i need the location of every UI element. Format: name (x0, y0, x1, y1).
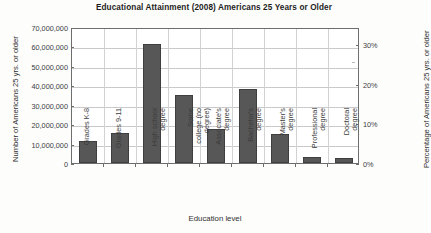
y-axis-left-tick-mark (71, 67, 74, 68)
gridline-vertical (264, 29, 265, 163)
gridline-horizontal (72, 87, 358, 88)
x-axis-category-label-line: Grades 9-11 (115, 108, 123, 168)
x-axis-tick-mark (103, 164, 104, 167)
x-axis-category-label: High schooldegree (151, 108, 167, 168)
x-axis-category-label-line: degree (319, 108, 327, 168)
y-axis-left-tick-mark (71, 28, 74, 29)
y-axis-left-tick-label: 0 (12, 160, 68, 169)
y-axis-left-tick-mark (71, 125, 74, 126)
chart-title: Educational Attainment (2008) Americans … (44, 3, 384, 12)
y-axis-right-ticks: 30%20%10%0% (363, 28, 397, 164)
y-axis-left-tick-label: 60,000,000 (12, 43, 68, 52)
y-axis-left-tick-label: 70,000,000 (12, 24, 68, 33)
x-axis-category-label-line: degree (223, 108, 231, 168)
y-axis-left-tick-label: 10,000,000 (12, 140, 68, 149)
y-axis-left-tick-label: 50,000,000 (12, 62, 68, 71)
y-axis-right-tick-label: 0% (363, 160, 395, 169)
y-axis-left-title: Number of Americans 25 yrs. or older (11, 36, 20, 162)
x-axis-category-label-line: degree (255, 108, 263, 168)
y-axis-right-tick-mark (356, 45, 359, 46)
x-axis-category-label: Grades K-8 (83, 108, 91, 168)
y-axis-left-tick-mark (71, 86, 74, 87)
x-axis-category-label-line: degree) (204, 108, 212, 168)
y-axis-left-tick-mark (71, 47, 74, 48)
y-axis-right-tick-label: 10% (363, 120, 395, 129)
y-axis-left-tick-mark (71, 145, 74, 146)
y-axis-right-title: Percentage of Americans 25 yrs. or older (422, 30, 431, 168)
y-axis-left-tick-mark (71, 106, 74, 107)
x-axis-category-label: Professionaldegree (311, 108, 327, 168)
x-axis-category-label-line: Grades K-8 (83, 108, 91, 168)
x-axis-category-label-line: degree (351, 108, 359, 168)
y-axis-right-tick-mark (356, 85, 359, 86)
gridline-vertical (328, 29, 329, 163)
x-axis-category-label: Bachelor'sdegree (247, 108, 263, 168)
gridline-vertical (232, 29, 233, 163)
y-axis-right-tick-label: 20% (363, 80, 395, 89)
y-axis-left-tick-label: 20,000,000 (12, 121, 68, 130)
gridline-vertical (296, 29, 297, 163)
gridline-horizontal (72, 68, 358, 69)
gridline-horizontal (72, 48, 358, 49)
y-axis-right-tick-label: 30% (363, 41, 395, 50)
x-axis-category-label-line: degree (159, 108, 167, 168)
x-axis-category-label: Somecollege (nodegree) (187, 108, 212, 168)
gridline-vertical (168, 29, 169, 163)
gridline-vertical (104, 29, 105, 163)
x-axis-category-label: Associate'sdegree (215, 108, 231, 168)
x-axis-category-label: Grades 9-11 (115, 108, 123, 168)
x-axis-tick-mark (135, 164, 136, 167)
scan-artifact-speck (352, 62, 355, 63)
x-axis-title: Education level (71, 214, 359, 223)
y-axis-left-tick-label: 40,000,000 (12, 82, 68, 91)
x-axis-category-label: Master'sdegree (279, 108, 295, 168)
x-axis-category-label: Doctoraldegree (343, 108, 359, 168)
gridline-vertical (136, 29, 137, 163)
y-axis-left-tick-label: 30,000,000 (12, 101, 68, 110)
y-axis-left-tick-mark (71, 164, 74, 165)
x-axis-category-label-line: degree (287, 108, 295, 168)
